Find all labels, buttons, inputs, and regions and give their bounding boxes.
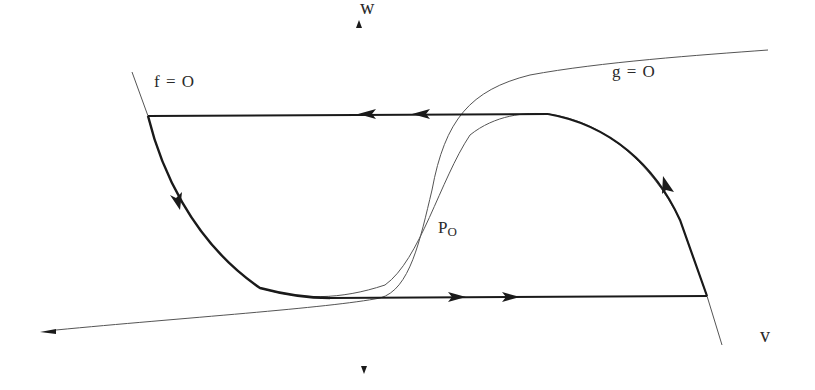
arrow-down-icon	[170, 192, 182, 210]
g-nullcline	[56, 50, 768, 330]
w-axis-label: w	[360, 0, 374, 19]
w-axis-bottom-tip-icon	[361, 366, 367, 374]
g-nullcline-label: g = O	[612, 62, 656, 82]
limit-cycle-right	[548, 114, 707, 296]
v-axis-left-arrow-icon	[40, 329, 56, 334]
w-axis-arrow-icon	[356, 20, 362, 28]
arrow-up-icon	[662, 176, 674, 194]
limit-cycle-top	[148, 114, 548, 116]
f-nullcline-label: f = O	[154, 72, 195, 92]
f-nullcline	[132, 72, 722, 345]
phase-plane-diagram	[0, 0, 815, 390]
fixed-point-label: PO	[438, 218, 457, 240]
v-axis-label: v	[760, 324, 770, 347]
fixed-point-subscript: O	[447, 224, 456, 239]
limit-cycle-left	[148, 116, 330, 298]
